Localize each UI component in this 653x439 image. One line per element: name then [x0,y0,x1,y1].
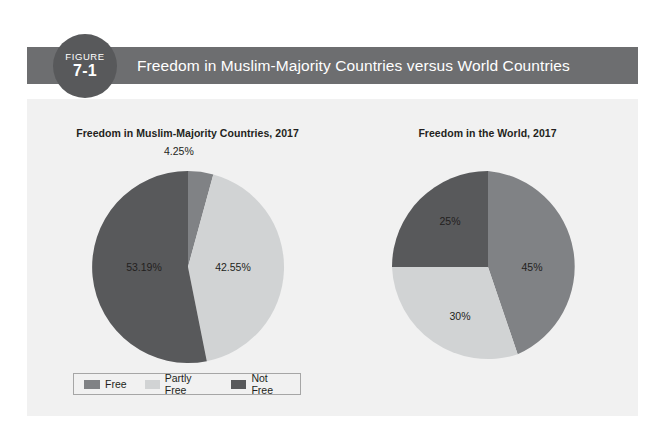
pie-wrap-right: 45% 30% 25% [347,167,628,367]
legend-label-partly-free: Partly Free [165,372,214,396]
pie-slice-label-partly-free-right: 30% [449,310,470,322]
pie-slice-label-free-right: 45% [521,261,542,273]
legend-item-free-left[interactable]: Free [84,378,127,390]
figure-content-panel: Freedom in Muslim-Majority Countries, 20… [27,99,638,416]
legend-swatch-free-icon [84,380,100,389]
chart-world: Freedom in the World, 2017 45% 30% 25% F… [347,99,628,416]
pie-slice-label-partly-free-left: 42.55% [215,261,251,273]
figure-header: FIGURE 7-1 Freedom in Muslim-Majority Co… [27,47,638,84]
legend-label-free: Free [105,378,127,390]
pie-chart-left: 53.19% 42.55% [88,167,288,367]
legend-item-partly-free-left[interactable]: Partly Free [145,372,214,396]
pie-slice-label-not-free-right: 25% [439,215,460,227]
chart-muslim-majority: Freedom in Muslim-Majority Countries, 20… [47,99,328,416]
legend-item-not-free-left[interactable]: Not Free [231,372,290,396]
legend-label-not-free: Not Free [251,372,290,396]
legend-left: Free Partly Free Not Free [73,373,301,395]
chart-title-left: Freedom in Muslim-Majority Countries, 20… [47,127,328,139]
chart-title-right: Freedom in the World, 2017 [347,127,628,139]
figure-number-badge: FIGURE 7-1 [53,34,117,98]
figure-badge-number: 7-1 [53,62,117,80]
pie-wrap-left: 4.25% 53.19% 42.55% [47,167,328,367]
legend-swatch-not-free-icon [231,380,246,389]
legend-swatch-partly-free-icon [145,380,160,389]
pie-slice-label-free-left: 4.25% [164,145,194,157]
figure-badge-label: FIGURE [53,51,117,62]
figure-title: Freedom in Muslim-Majority Countries ver… [137,47,570,84]
pie-slice-label-not-free-left: 53.19% [126,261,162,273]
pie-chart-right: 45% 30% 25% [388,167,588,367]
